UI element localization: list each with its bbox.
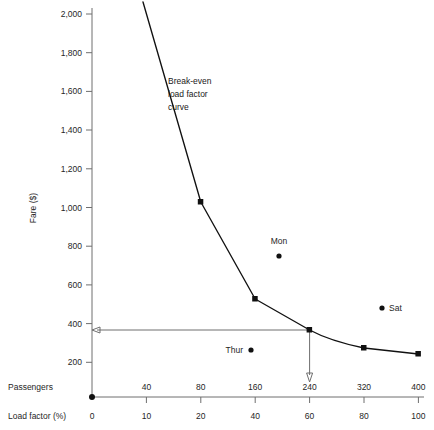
curve-annotation: Break-even load factor curve: [168, 76, 212, 112]
y-tick-label-1200: 1,200: [61, 164, 83, 174]
breakeven-guide-group: [92, 327, 313, 382]
x-pass-label-160: 160: [248, 382, 262, 392]
curve-annotation-line-2: load factor: [168, 89, 208, 99]
y-tick-label-1800: 1,800: [61, 48, 83, 58]
x-lf-label-100: 100: [411, 411, 425, 421]
x-lf-label-40: 40: [250, 411, 260, 421]
y-axis-group: 2,000 1,800 1,600 1,400 1,200 1,000 800 …: [28, 8, 92, 397]
break-even-curve-group: [143, 2, 421, 357]
x-lf-label-10: 10: [142, 411, 152, 421]
curve-marker-240: [307, 327, 313, 333]
break-even-curve-path: [143, 2, 418, 354]
curve-annotation-line-1: Break-even: [168, 76, 212, 86]
day-scatter-points-group: Mon Sat Thur: [226, 236, 403, 355]
x-axis-group: Passengers 40 80 160 240 320 400 Load fa…: [8, 382, 426, 421]
x-pass-label-400: 400: [411, 382, 425, 392]
curve-marker-320: [361, 345, 367, 351]
y-tick-label-600: 600: [68, 280, 82, 290]
scatter-label-sat: Sat: [389, 303, 402, 313]
y-tick-label-1600: 1,600: [61, 86, 83, 96]
scatter-dot-mon: [276, 253, 281, 258]
curve-marker-80: [198, 199, 204, 205]
origin-dot: [89, 394, 95, 400]
y-axis-title: Fare ($): [28, 193, 38, 223]
y-tick-label-800: 800: [68, 241, 82, 251]
y-tick-label-1400: 1,400: [61, 125, 83, 135]
break-even-load-factor-chart: 2,000 1,800 1,600 1,400 1,200 1,000 800 …: [0, 0, 434, 430]
x-axis-title-load-factor: Load factor (%): [8, 411, 66, 421]
x-lf-label-0: 0: [90, 411, 95, 421]
scatter-dot-thur: [248, 347, 253, 352]
x-lf-label-20: 20: [196, 411, 206, 421]
x-pass-label-240: 240: [303, 382, 317, 392]
curve-marker-400: [415, 351, 421, 357]
y-tick-label-400: 400: [68, 319, 82, 329]
x-axis-title-passengers: Passengers: [8, 382, 53, 392]
x-pass-label-40: 40: [142, 382, 152, 392]
x-pass-label-320: 320: [357, 382, 371, 392]
chart-canvas: 2,000 1,800 1,600 1,400 1,200 1,000 800 …: [0, 0, 434, 430]
y-tick-label-1000: 1,000: [61, 203, 83, 213]
y-tick-label-2000: 2,000: [61, 9, 83, 19]
x-lf-label-60: 60: [305, 411, 315, 421]
scatter-label-mon: Mon: [271, 236, 288, 246]
y-tick-label-200: 200: [68, 357, 82, 367]
scatter-label-thur: Thur: [226, 345, 244, 355]
curve-marker-160: [252, 296, 258, 302]
x-lf-label-80: 80: [359, 411, 369, 421]
x-pass-label-80: 80: [196, 382, 206, 392]
curve-annotation-line-3: curve: [168, 102, 189, 112]
scatter-dot-sat: [379, 305, 384, 310]
